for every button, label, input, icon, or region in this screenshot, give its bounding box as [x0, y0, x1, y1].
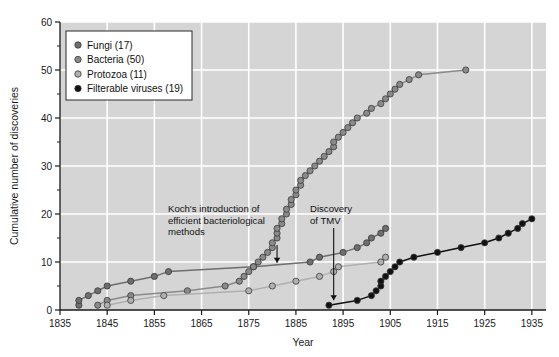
- legend-label: Protozoa (11): [87, 69, 147, 80]
- legend-label: Fungi (17): [87, 40, 133, 51]
- legend-marker: [75, 42, 81, 48]
- x-tick-label: 1915: [426, 318, 449, 329]
- x-tick-label: 1875: [238, 318, 261, 329]
- data-point: [326, 149, 332, 155]
- data-point: [364, 240, 370, 246]
- data-point: [85, 293, 91, 299]
- data-point: [316, 254, 322, 260]
- legend-label: Filterable viruses (19): [87, 83, 183, 94]
- data-point: [392, 86, 398, 92]
- data-point: [298, 177, 304, 183]
- data-point: [416, 72, 422, 78]
- chart-legend: Fungi (17)Bacteria (50)Protozoa (11)Filt…: [66, 31, 192, 100]
- data-point: [368, 235, 374, 241]
- annotation-text: efficient bacteriological: [168, 215, 265, 226]
- data-point: [434, 249, 440, 255]
- data-point: [345, 125, 351, 131]
- figure-container: 1835184518551865187518851895190519151925…: [0, 0, 559, 357]
- x-tick-label: 1895: [332, 318, 355, 329]
- y-tick-label: 0: [46, 305, 52, 316]
- data-point: [321, 153, 327, 159]
- y-tick-label: 20: [41, 209, 53, 220]
- data-point: [519, 221, 525, 227]
- data-point: [293, 278, 299, 284]
- data-point: [373, 288, 379, 294]
- annotation-text: of TMV: [310, 215, 341, 226]
- data-point: [95, 288, 101, 294]
- data-point: [165, 269, 171, 275]
- x-tick-label: 1935: [521, 318, 544, 329]
- data-point: [236, 278, 242, 284]
- data-point: [406, 77, 412, 83]
- data-point: [288, 197, 294, 203]
- data-point: [316, 158, 322, 164]
- data-point: [368, 293, 374, 299]
- y-tick-label: 40: [41, 113, 53, 124]
- data-point: [250, 264, 256, 270]
- data-point: [161, 293, 167, 299]
- data-point: [246, 288, 252, 294]
- data-point: [104, 302, 110, 308]
- data-point: [293, 187, 299, 193]
- x-tick-label: 1835: [49, 318, 72, 329]
- data-point: [378, 230, 384, 236]
- data-point: [312, 163, 318, 169]
- data-point: [269, 240, 275, 246]
- data-point: [260, 254, 266, 260]
- data-point: [241, 273, 247, 279]
- data-point: [354, 245, 360, 251]
- data-point: [392, 264, 398, 270]
- data-point: [269, 283, 275, 289]
- data-point: [378, 259, 384, 265]
- data-point: [128, 297, 134, 303]
- data-point: [411, 254, 417, 260]
- data-point: [340, 129, 346, 135]
- data-point: [307, 168, 313, 174]
- x-tick-label: 1885: [285, 318, 308, 329]
- data-point: [364, 110, 370, 116]
- data-point: [76, 297, 82, 303]
- data-point: [387, 91, 393, 97]
- annotation-text: Koch's introduction of: [168, 203, 260, 214]
- data-point: [482, 240, 488, 246]
- data-point: [354, 297, 360, 303]
- data-point: [529, 216, 535, 222]
- data-point: [255, 259, 261, 265]
- legend-marker: [75, 56, 81, 62]
- data-point: [335, 134, 341, 140]
- annotation-text: methods: [168, 226, 205, 237]
- data-point: [378, 278, 384, 284]
- data-point: [274, 225, 280, 231]
- data-point: [354, 115, 360, 121]
- data-point: [349, 120, 355, 126]
- y-tick-label: 50: [41, 65, 53, 76]
- data-point: [331, 139, 337, 145]
- legend-marker: [75, 71, 81, 77]
- data-point: [335, 264, 341, 270]
- data-point: [378, 101, 384, 107]
- y-axis-title: Cumulative number of discoveries: [8, 87, 20, 245]
- x-tick-label: 1855: [143, 318, 166, 329]
- data-point: [397, 81, 403, 87]
- data-point: [283, 206, 289, 212]
- data-point: [382, 225, 388, 231]
- x-axis-title: Year: [292, 336, 314, 348]
- data-point: [463, 67, 469, 73]
- legend-label: Bacteria (50): [87, 54, 144, 65]
- data-point: [382, 96, 388, 102]
- data-point: [151, 273, 157, 279]
- data-point: [382, 273, 388, 279]
- y-tick-label: 10: [41, 257, 53, 268]
- data-point: [302, 173, 308, 179]
- data-point: [515, 225, 521, 231]
- data-point: [397, 259, 403, 265]
- data-point: [265, 249, 271, 255]
- x-tick-label: 1865: [190, 318, 213, 329]
- y-tick-label: 30: [41, 161, 53, 172]
- data-point: [222, 283, 228, 289]
- data-point: [246, 269, 252, 275]
- x-tick-label: 1925: [474, 318, 497, 329]
- data-point: [95, 302, 101, 308]
- annotation-text: Discovery: [310, 203, 352, 214]
- data-point: [458, 245, 464, 251]
